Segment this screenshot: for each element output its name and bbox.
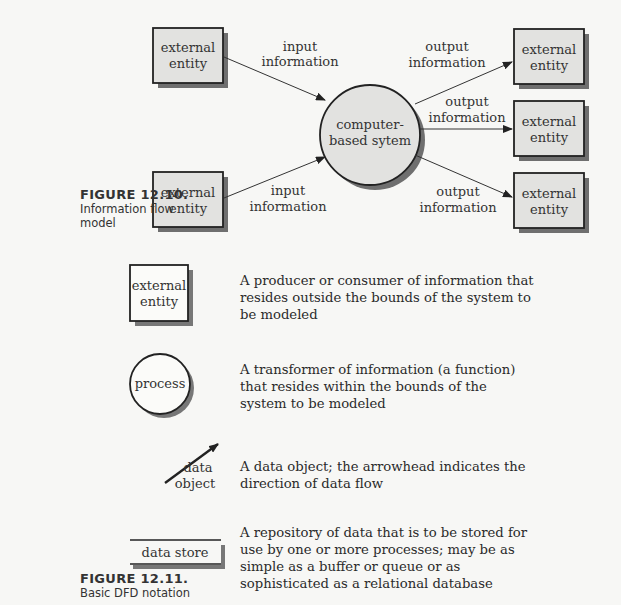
svg-text:entity: entity [530,58,569,73]
input-entity-1: external entity [153,28,228,88]
legend-external-entity-symbol: external entity [130,265,193,326]
legend-data-object-symbol: data object [165,444,218,491]
desc-line: system to be modeled [240,395,540,412]
svg-text:data store: data store [142,545,209,560]
desc-line: use by one or more processes; may be as [240,541,540,558]
input-flow-label-1-line2: information [261,54,339,69]
svg-text:external: external [522,114,576,129]
figure-12-11-caption: FIGURE 12.11. Basic DFD notation [80,572,190,600]
caption-line: Information flow [80,202,188,216]
output-entity-1: external entity [514,29,589,89]
caption-line: model [80,216,188,230]
output-entity-2: external entity [514,101,589,161]
legend-desc-process: A transformer of information (a function… [240,361,540,412]
svg-text:external: external [132,278,186,293]
desc-line: A transformer of information (a function… [240,361,540,378]
svg-text:object: object [175,476,216,491]
caption-line: Basic DFD notation [80,586,190,600]
svg-text:entity: entity [530,130,569,145]
svg-text:computer-: computer- [336,117,404,132]
svg-text:output: output [425,39,469,54]
legend-process-symbol: process [130,354,194,418]
svg-text:entity: entity [169,56,208,71]
desc-line: simple as a buffer or queue or as [240,558,540,575]
desc-line: be modeled [240,306,540,323]
desc-line: A repository of data that is to be store… [240,524,540,541]
svg-text:data: data [183,460,212,475]
svg-text:external: external [522,186,576,201]
desc-line: A data object; the arrowhead indicates t… [240,458,540,475]
svg-text:entity: entity [530,202,569,217]
legend-desc-data-store: A repository of data that is to be store… [240,524,540,592]
svg-text:entity: entity [140,294,179,309]
desc-line: sophisticated as a relational database [240,575,540,592]
svg-text:based sytem: based sytem [329,133,411,148]
desc-line: that resides within the bounds of the [240,378,540,395]
svg-text:output: output [436,184,480,199]
svg-text:information: information [408,55,486,70]
svg-text:output: output [445,94,489,109]
svg-text:external: external [522,42,576,57]
input-flow-label-1-line1: input [283,39,318,54]
legend-desc-data-object: A data object; the arrowhead indicates t… [240,458,540,492]
desc-line: resides outside the bounds of the system… [240,289,540,306]
computer-based-system: computer- based sytem [320,85,425,190]
desc-line: A producer or consumer of information th… [240,272,540,289]
svg-text:information: information [428,110,506,125]
svg-text:external: external [161,40,215,55]
legend-desc-external-entity: A producer or consumer of information th… [240,272,540,323]
figure-12-10-caption: FIGURE 12.10. Information flow model [80,188,188,230]
caption-number: FIGURE 12.11. [80,572,190,586]
input-flow-label-2-line2: information [249,199,327,214]
caption-number: FIGURE 12.10. [80,188,188,202]
output-entity-3: external entity [514,173,589,233]
svg-text:information: information [419,200,497,215]
desc-line: direction of data flow [240,475,540,492]
legend-data-store-symbol: data store [130,540,225,569]
input-flow-label-2-line1: input [271,183,306,198]
svg-text:process: process [135,376,186,391]
